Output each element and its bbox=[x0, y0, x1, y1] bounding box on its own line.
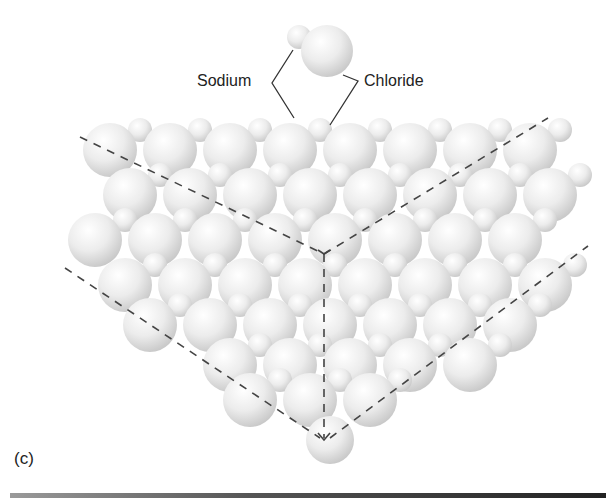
chloride-ion bbox=[443, 338, 497, 392]
chloride-ion bbox=[223, 373, 277, 427]
crystal-lattice bbox=[68, 118, 592, 464]
chloride-ion bbox=[68, 213, 122, 267]
sodium-label: Sodium bbox=[197, 72, 251, 90]
nacl-lattice-diagram bbox=[0, 0, 606, 498]
panel-label: (c) bbox=[14, 449, 34, 469]
bottom-border-bar bbox=[10, 493, 606, 498]
sodium-chloride-pair bbox=[287, 25, 353, 77]
chloride-label: Chloride bbox=[364, 72, 424, 90]
chloride-ion bbox=[343, 373, 397, 427]
chloride-ion bbox=[123, 298, 177, 352]
chloride-ion bbox=[306, 416, 354, 464]
